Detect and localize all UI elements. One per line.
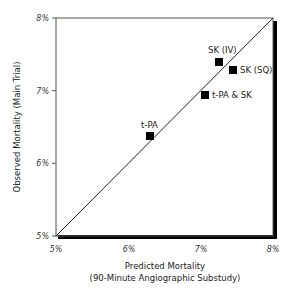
x-tick-7: 7% (195, 245, 208, 254)
x-tick-8: 8% (267, 245, 280, 254)
y-axis-title: Observed Mortality (Main Trial) (12, 62, 22, 193)
label-tpa-sk: t-PA & SK (212, 90, 252, 100)
x-axis-subtitle: (90-Minute Angiographic Substudy) (90, 273, 241, 283)
marker-tpa-sk (201, 91, 209, 99)
y-tick-8: 8% (36, 14, 49, 23)
label-tpa: t-PA (141, 120, 158, 130)
x-axis: 5% 6% 7% 8% (50, 245, 280, 254)
x-tick-6: 6% (123, 245, 136, 254)
x-tick-5: 5% (50, 245, 63, 254)
identity-line (56, 18, 273, 236)
mortality-scatter-chart: 8% 7% 6% 5% 5% 6% 7% 8% Predicted Mortal… (0, 0, 295, 295)
data-points: SK (IV) SK (SQ) t-PA & SK t-PA (141, 45, 272, 140)
frame-shadow-right (273, 21, 277, 239)
marker-sk-sq (229, 66, 237, 74)
x-axis-title: Predicted Mortality (125, 261, 205, 271)
label-sk-iv: SK (IV) (208, 45, 237, 55)
y-axis: 8% 7% 6% 5% (36, 14, 56, 241)
marker-tpa (146, 132, 154, 140)
marker-sk-iv (215, 58, 223, 66)
y-tick-6: 6% (36, 159, 49, 168)
y-tick-7: 7% (36, 87, 49, 96)
label-sk-sq: SK (SQ) (240, 65, 272, 75)
y-tick-5: 5% (36, 232, 49, 241)
